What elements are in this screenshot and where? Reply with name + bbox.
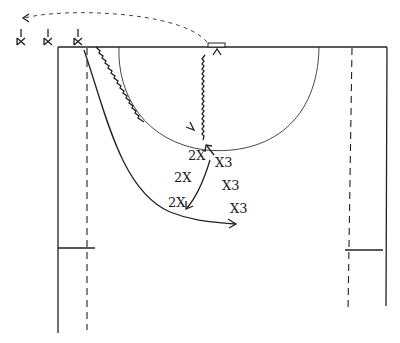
defender-label: X3: [222, 178, 240, 193]
cut-path: [84, 50, 235, 224]
defender-label: 2X: [188, 148, 206, 163]
defender-label: 2X: [168, 195, 186, 210]
play-diagram: 2X X3 2X X3 2X X3: [0, 0, 400, 343]
defender-label: X3: [215, 155, 233, 170]
defender-label: X3: [230, 201, 248, 216]
backboard: [208, 43, 225, 47]
defender-label: 2X: [174, 170, 192, 185]
right-sideline: [386, 47, 387, 306]
dribble-to-basket-path: [202, 55, 205, 140]
player-marker: [17, 29, 25, 45]
defense-labels: 2X X3 2X X3 2X X3: [168, 148, 248, 216]
player-marker: [74, 29, 82, 45]
pass-arc: [23, 13, 207, 42]
right-dashed-lane: [348, 48, 352, 312]
arrow-head-icon: [186, 122, 194, 130]
player-marker: [44, 29, 52, 45]
arrow-head-icon: [213, 49, 221, 55]
movement-paths: [84, 47, 236, 228]
offense-players: [17, 29, 82, 45]
free-throw-semicircle: [119, 47, 319, 151]
